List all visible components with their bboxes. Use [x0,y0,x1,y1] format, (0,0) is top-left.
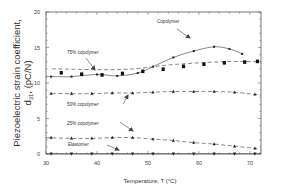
x-tick-30: 30 [43,160,49,166]
arrow-25-copolymer [120,122,133,131]
data-point [70,76,72,78]
data-point [202,62,205,66]
data-point [80,72,83,76]
data-point [193,50,195,52]
y-tick-15: 15 [34,45,40,51]
y-axis-title-line1: Piezoelectric strain coefficient, [11,19,22,147]
piezoelectric-chart: 30 40 50 60 70 0 5 10 15 20 Copolymer 75… [0,0,289,189]
y-tick-20: 20 [34,9,40,15]
data-point [228,48,230,50]
data-point [141,70,144,74]
data-point [60,71,63,75]
x-tick-50: 50 [145,160,151,166]
annotations: Copolymer 75% copolymer 50% copolymer 25… [67,19,190,150]
data-point [256,60,259,64]
data-point [100,73,103,77]
axis-tick-labels: 30 40 50 60 70 0 5 10 15 20 [34,9,253,166]
data-point [121,72,124,76]
series-75-copolymer [52,60,261,77]
data-point [223,61,226,65]
data-point [241,53,243,55]
arrow-75-copolymer [86,58,95,70]
x-tick-60: 60 [196,160,202,166]
series-layer [46,46,261,156]
data-point [50,76,52,78]
y-axis-title-line2: d31, (pC/N) [22,60,34,105]
data-point [182,65,185,69]
label-75-copolymer: 75% copolymer [67,50,99,55]
arrow-50-copolymer [123,95,128,104]
y-tick-10: 10 [34,80,40,86]
axis-ticks [46,12,261,154]
data-point [233,144,236,147]
data-point [243,60,246,64]
y-tick-5: 5 [37,116,40,122]
x-tick-40: 40 [94,160,100,166]
plot-frame [46,12,261,154]
x-axis-title: Temperature, T (°C) [124,178,177,184]
y-tick-0: 0 [37,151,40,157]
arrow-elastomer [107,145,119,150]
data-point [116,75,118,77]
data-point [233,90,236,93]
label-copolymer: Copolymer [157,19,180,24]
data-point [213,46,215,48]
label-25-copolymer: 25% copolymer [67,121,99,126]
data-point [192,90,195,93]
x-tick-70: 70 [247,160,253,166]
data-point [172,56,174,58]
series-50-copolymer [49,90,261,96]
label-50-copolymer: 50% copolymer [67,102,99,107]
y-axis-title: Piezoelectric strain coefficient, d31, (… [11,19,34,147]
arrow-copolymer [177,29,190,38]
data-point [96,73,98,75]
data-point [213,142,216,145]
label-elastomer: Elastomer [68,142,89,147]
data-point [49,136,52,139]
data-point [162,67,165,71]
data-point [137,72,139,74]
